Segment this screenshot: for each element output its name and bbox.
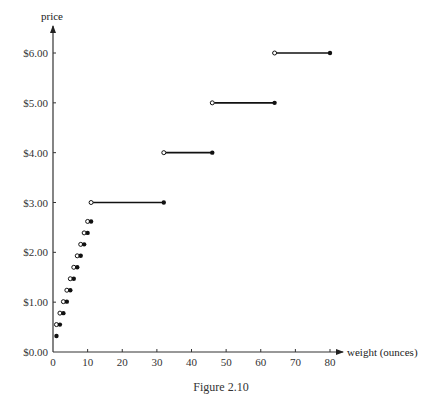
step-segment — [54, 322, 62, 326]
closed-endpoint — [54, 334, 58, 338]
closed-endpoint — [89, 219, 93, 223]
x-tick-label: 50 — [221, 356, 233, 368]
x-tick-label: 80 — [325, 356, 337, 368]
closed-endpoint — [210, 150, 214, 154]
closed-endpoint — [72, 277, 76, 281]
step-segment — [89, 200, 166, 204]
x-tick-label: 20 — [117, 356, 129, 368]
step-segment — [273, 51, 333, 55]
y-tick-label: $4.00 — [23, 147, 48, 159]
closed-endpoint — [75, 265, 79, 269]
open-endpoint — [210, 101, 214, 105]
closed-endpoint — [65, 299, 69, 303]
tick-marks: 01020304050607080$0.00$1.00$2.00$3.00$4.… — [23, 47, 336, 368]
open-endpoint — [273, 51, 277, 55]
closed-endpoint — [61, 311, 65, 315]
y-tick-label: $3.00 — [23, 197, 48, 209]
step-segment — [65, 288, 73, 292]
axes — [53, 26, 343, 352]
closed-endpoint — [68, 288, 72, 292]
step-segment — [82, 231, 90, 235]
step-series — [54, 51, 332, 338]
step-segment — [68, 277, 76, 281]
closed-endpoint — [85, 231, 89, 235]
step-segment — [86, 219, 94, 223]
closed-endpoint — [328, 51, 332, 55]
step-chart: 01020304050607080$0.00$1.00$2.00$3.00$4.… — [0, 0, 442, 411]
x-tick-label: 30 — [151, 356, 163, 368]
step-segment — [58, 311, 66, 315]
x-tick-label: 10 — [82, 356, 94, 368]
x-tick-label: 60 — [255, 356, 267, 368]
step-segment — [61, 299, 69, 303]
y-tick-label: $1.00 — [23, 296, 48, 308]
closed-endpoint — [58, 322, 62, 326]
step-segment — [72, 265, 80, 269]
y-axis-label: price — [41, 10, 63, 22]
step-segment — [79, 242, 87, 246]
closed-endpoint — [82, 242, 86, 246]
y-tick-label: $0.00 — [23, 346, 48, 358]
x-axis-label: weight (ounces) — [347, 346, 418, 359]
step-segment — [54, 334, 58, 338]
y-tick-label: $2.00 — [23, 246, 48, 258]
open-endpoint — [89, 201, 93, 205]
y-tick-label: $5.00 — [23, 97, 48, 109]
open-endpoint — [162, 151, 166, 155]
closed-endpoint — [162, 200, 166, 204]
y-tick-label: $6.00 — [23, 47, 48, 59]
closed-endpoint — [272, 101, 276, 105]
figure-caption: Figure 2.10 — [0, 380, 442, 395]
x-tick-label: 40 — [186, 356, 198, 368]
x-tick-label: 70 — [290, 356, 302, 368]
step-segment — [75, 254, 83, 258]
step-segment — [210, 101, 277, 105]
closed-endpoint — [79, 254, 83, 258]
step-segment — [162, 150, 215, 154]
x-tick-label: 0 — [50, 356, 56, 368]
